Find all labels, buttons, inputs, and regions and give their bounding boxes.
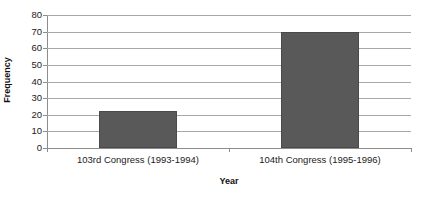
y-tick-label: 20 bbox=[17, 110, 42, 120]
y-tick-label: 60 bbox=[17, 43, 42, 53]
category-tick-mark bbox=[411, 148, 412, 152]
y-tick-label: 80 bbox=[17, 10, 42, 20]
y-tick-label: 40 bbox=[17, 77, 42, 87]
y-tick-label: 0 bbox=[17, 143, 42, 153]
y-axis-title: Frequency bbox=[0, 0, 14, 160]
y-tick-label: 10 bbox=[17, 126, 42, 136]
category-tick-mark bbox=[47, 148, 48, 152]
gridline bbox=[47, 15, 411, 16]
y-axis-title-label: Frequency bbox=[2, 57, 12, 103]
y-tick-label: 70 bbox=[17, 27, 42, 37]
y-tick-label: 30 bbox=[17, 93, 42, 103]
x-axis-title: Year bbox=[47, 176, 411, 186]
category-label: 104th Congress (1995-1996) bbox=[229, 155, 411, 165]
bar-chart: Frequency 01020304050607080 103rd Congre… bbox=[0, 0, 425, 199]
category-label: 103rd Congress (1993-1994) bbox=[47, 155, 229, 165]
bar bbox=[281, 32, 359, 148]
plot-area bbox=[47, 15, 411, 148]
y-tick-label: 50 bbox=[17, 60, 42, 70]
category-tick-mark bbox=[229, 148, 230, 152]
bar bbox=[99, 111, 177, 148]
